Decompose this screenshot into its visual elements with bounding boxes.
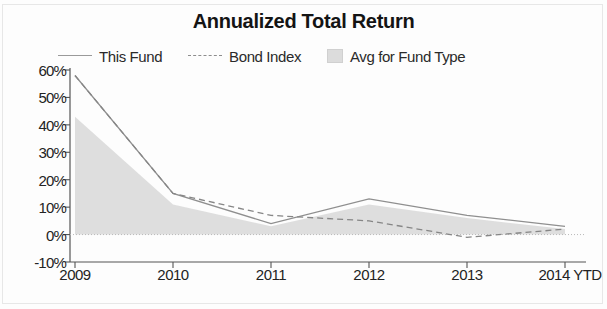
- x-tick-label-3: 2012: [353, 266, 384, 283]
- x-tick-label-4: 2013: [451, 266, 482, 283]
- y-axis-labels: 60%50%40%30%20%10%0%-10%: [4, 0, 66, 309]
- x-tick-label-1: 2010: [157, 266, 188, 283]
- series-area-avg-for-fund-type: [75, 117, 565, 235]
- plot-svg: [0, 0, 607, 309]
- y-tick-label-2: 40%: [38, 116, 66, 133]
- annualized-total-return-chart: Annualized Total Return This Fund Bond I…: [0, 0, 607, 309]
- x-tick-label-2: 2011: [256, 266, 286, 283]
- y-tick-label-1: 50%: [38, 89, 66, 106]
- y-tick-label-5: 10%: [38, 199, 66, 216]
- y-tick-label-3: 30%: [38, 144, 66, 161]
- x-tick-label-5: 2014 YTD: [538, 266, 601, 283]
- y-tick-label-4: 20%: [38, 171, 66, 188]
- y-tick-label-6: 0%: [46, 226, 66, 243]
- x-tick-label-0: 2009: [59, 266, 90, 283]
- y-tick-label-0: 60%: [38, 62, 66, 79]
- plot-area: 60%50%40%30%20%10%0%-10% 200920102011201…: [0, 0, 607, 309]
